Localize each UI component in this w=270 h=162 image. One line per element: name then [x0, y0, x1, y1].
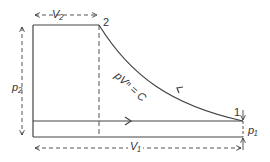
state-2-label: 2	[103, 17, 109, 28]
v2-label: V₂	[52, 9, 64, 20]
pv-diagram	[0, 0, 270, 162]
v1-label: V₁	[128, 141, 143, 152]
p1-label: p₁	[248, 125, 258, 136]
state-1-label: 1	[234, 107, 240, 118]
curve-arrow-icon	[177, 87, 183, 93]
p2-label: p₂	[12, 82, 22, 93]
